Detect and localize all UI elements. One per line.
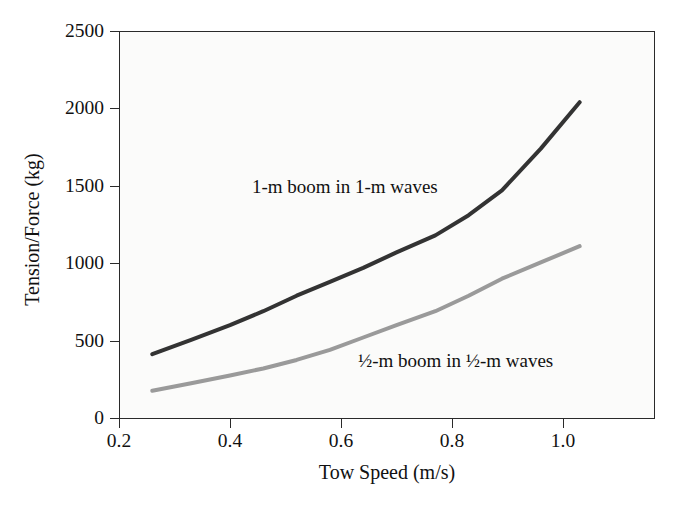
y-tick-1000	[110, 263, 120, 264]
y-tick-label-0: 0	[18, 407, 104, 429]
x-tick-0-8	[452, 418, 453, 428]
y-tick-2000	[110, 108, 120, 109]
series-annotation-1m-boom: 1-m boom in 1-m waves	[252, 176, 438, 198]
y-tick-500	[110, 341, 120, 342]
series-annotation-half-m-boom: ½-m boom in ½-m waves	[358, 350, 553, 372]
y-axis-title: Tension/Force (kg)	[21, 120, 44, 340]
x-tick-label-0-8: 0.8	[417, 430, 487, 452]
x-tick-0-2	[119, 418, 120, 428]
y-tick-label-2000: 2000	[18, 97, 104, 119]
x-tick-0-6	[341, 418, 342, 428]
chart-figure: 2500 2000 1500 1000 500 0 0.2 0.4 0.6 0.…	[0, 0, 690, 511]
x-axis-title: Tow Speed (m/s)	[119, 461, 655, 484]
x-tick-label-1-0: 1.0	[528, 430, 598, 452]
x-tick-label-0-2: 0.2	[84, 430, 154, 452]
y-tick-label-2500: 2500	[18, 20, 104, 42]
y-tick-2500	[110, 31, 120, 32]
x-tick-1-0	[563, 418, 564, 428]
x-tick-0-4	[230, 418, 231, 428]
x-tick-label-0-4: 0.4	[195, 430, 265, 452]
x-tick-label-0-6: 0.6	[306, 430, 376, 452]
y-tick-1500	[110, 186, 120, 187]
